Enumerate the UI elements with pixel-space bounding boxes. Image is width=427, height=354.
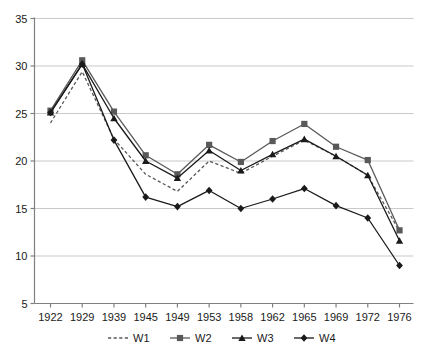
- legend-item-W2[interactable]: W2: [170, 332, 212, 344]
- gridlines: [35, 19, 414, 257]
- x-tick-label-1976: 1976: [387, 311, 411, 323]
- data-point-W4-1965: [301, 185, 308, 193]
- x-tick-label-1965: 1965: [292, 311, 316, 323]
- y-tick-label-35: 35: [15, 13, 27, 25]
- legend-label-W3: W3: [257, 332, 274, 344]
- data-point-W3-1969: [332, 153, 339, 160]
- series-line-W2: [51, 60, 400, 230]
- data-point-W3-1972: [364, 172, 371, 179]
- data-point-W2-1962: [269, 138, 275, 144]
- data-point-W3-1958: [237, 167, 244, 174]
- legend-marker-W4: [301, 334, 308, 342]
- data-point-W4-1949: [174, 203, 181, 211]
- x-axis-ticks: 1922192919391945194919531958196219651969…: [38, 304, 411, 323]
- y-axis-ticks: 5101520253035: [15, 13, 34, 310]
- chart-canvas: 5101520253035192219291939194519491953195…: [0, 0, 427, 354]
- data-point-W3-1976: [396, 237, 403, 244]
- data-point-W2-1976: [396, 227, 402, 233]
- data-point-W2-1958: [238, 159, 244, 165]
- x-tick-label-1962: 1962: [260, 311, 284, 323]
- data-point-W3-1965: [301, 136, 308, 143]
- y-tick-label-25: 25: [15, 108, 27, 120]
- data-point-W4-1958: [237, 205, 244, 213]
- x-tick-label-1929: 1929: [70, 311, 94, 323]
- legend-label-W4: W4: [319, 332, 336, 344]
- y-tick-label-10: 10: [15, 250, 27, 262]
- data-point-W2-1965: [301, 121, 307, 127]
- data-point-W2-1969: [333, 144, 339, 150]
- legend: W1W2W3W4: [108, 332, 336, 344]
- legend-item-W4[interactable]: W4: [294, 332, 336, 344]
- data-point-W4-1939: [111, 136, 118, 144]
- data-point-W3-1962: [269, 151, 276, 158]
- legend-label-W2: W2: [195, 332, 212, 344]
- x-tick-label-1945: 1945: [133, 311, 157, 323]
- data-point-W4-1945: [142, 193, 149, 201]
- x-tick-label-1939: 1939: [102, 311, 126, 323]
- y-tick-label-30: 30: [15, 60, 27, 72]
- series-W2: [47, 57, 402, 233]
- x-tick-label-1969: 1969: [324, 311, 348, 323]
- x-tick-label-1953: 1953: [197, 311, 221, 323]
- x-tick-label-1972: 1972: [356, 311, 380, 323]
- data-point-W2-1972: [365, 157, 371, 163]
- legend-label-W1: W1: [133, 332, 150, 344]
- data-point-W4-1953: [206, 187, 213, 195]
- line-chart: 5101520253035192219291939194519491953195…: [0, 0, 427, 354]
- x-tick-label-1922: 1922: [38, 311, 62, 323]
- y-tick-label-20: 20: [15, 155, 27, 167]
- legend-item-W1[interactable]: W1: [108, 332, 150, 344]
- y-tick-label-5: 5: [21, 298, 27, 310]
- x-tick-label-1949: 1949: [165, 311, 189, 323]
- y-tick-label-15: 15: [15, 203, 27, 215]
- legend-item-W3[interactable]: W3: [232, 332, 274, 344]
- legend-marker-W2: [177, 335, 183, 341]
- x-tick-label-1958: 1958: [229, 311, 253, 323]
- series-line-W3: [51, 64, 400, 241]
- data-point-W4-1962: [269, 195, 276, 203]
